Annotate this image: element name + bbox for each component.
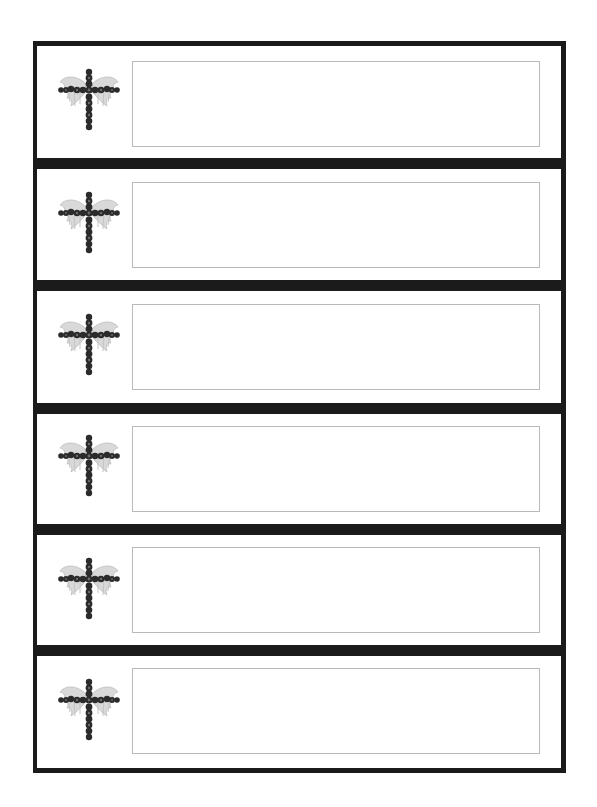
winged-jeweled-cross-icon bbox=[58, 191, 120, 255]
winged-jeweled-cross-icon bbox=[58, 434, 120, 498]
label-sheet-frame bbox=[33, 41, 566, 773]
row-separator bbox=[37, 524, 561, 535]
winged-jeweled-cross-icon bbox=[58, 678, 120, 742]
label-row bbox=[37, 414, 561, 524]
label-text-box[interactable] bbox=[132, 304, 540, 390]
winged-jeweled-cross-icon bbox=[58, 313, 120, 377]
row-separator bbox=[37, 645, 561, 656]
label-row bbox=[37, 46, 561, 158]
label-text-box[interactable] bbox=[132, 182, 540, 268]
label-text-box[interactable] bbox=[132, 668, 540, 754]
winged-jeweled-cross-icon bbox=[58, 68, 120, 132]
row-separator bbox=[37, 158, 561, 169]
label-row bbox=[37, 535, 561, 645]
row-separator bbox=[37, 280, 561, 291]
label-row bbox=[37, 656, 561, 768]
label-row bbox=[37, 291, 561, 403]
label-text-box[interactable] bbox=[132, 426, 540, 512]
label-text-box[interactable] bbox=[132, 61, 540, 147]
row-separator bbox=[37, 403, 561, 414]
label-row bbox=[37, 169, 561, 280]
winged-jeweled-cross-icon bbox=[58, 557, 120, 621]
label-text-box[interactable] bbox=[132, 547, 540, 633]
